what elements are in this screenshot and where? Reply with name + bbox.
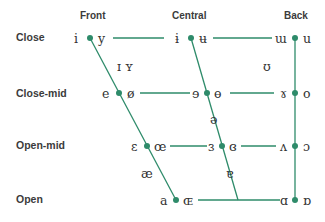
vowel-near-close-back-rounded: ʊ xyxy=(263,59,271,74)
vowel-open-back-rounded: ɒ xyxy=(303,193,311,208)
ipa-vowel-chart: Front Central Back Close Close-mid Open-… xyxy=(0,0,325,222)
vowel-open-mid-front-unrounded: ɛ xyxy=(131,139,137,154)
vowel-close-mid-front-rounded: ø xyxy=(127,86,135,101)
vowel-near-close-front-rounded: ʏ xyxy=(125,59,133,74)
vowel-close-mid-central-unrounded: ɘ xyxy=(192,86,199,101)
vowel-near-close-front-unrounded: ɪ xyxy=(117,59,121,74)
vowel-close-mid-front-unrounded: e xyxy=(102,86,109,101)
vowel-trapezoid: i y ɨ ʉ ɯ u ɪ ʏ ʊ e ø ɘ ɵ ɤ o ə ɛ œ ɜ ɞ … xyxy=(0,0,325,222)
vowel-open-back-unrounded: ɑ xyxy=(280,193,288,208)
vowel-open-front-rounded: ɶ xyxy=(183,193,193,208)
vowel-open-mid-central-unrounded: ɜ xyxy=(208,139,214,154)
vowel-open-front-unrounded: a xyxy=(160,193,168,208)
vowel-close-back-rounded: u xyxy=(303,31,311,46)
vowel-open-mid-central-rounded: ɞ xyxy=(229,139,237,154)
vowel-near-open-front: æ xyxy=(141,166,153,181)
vowel-close-mid-back-rounded: o xyxy=(303,86,311,101)
vowel-close-mid-central-rounded: ɵ xyxy=(214,86,222,101)
vowel-close-back-unrounded: ɯ xyxy=(275,31,287,46)
vowel-close-central-rounded: ʉ xyxy=(199,31,207,46)
vowel-close-central-unrounded: ɨ xyxy=(175,31,179,46)
vowel-open-mid-back-rounded: ɔ xyxy=(303,139,310,154)
vowel-open-mid-back-unrounded: ʌ xyxy=(279,139,288,154)
vowel-close-front-unrounded: i xyxy=(74,31,78,46)
vowel-close-mid-back-unrounded: ɤ xyxy=(280,86,287,101)
vowel-mid-central: ə xyxy=(210,112,217,127)
vowel-near-open-central: ɐ xyxy=(226,166,234,181)
vowel-open-mid-front-rounded: œ xyxy=(154,139,166,154)
vowel-close-front-rounded: y xyxy=(97,31,106,46)
